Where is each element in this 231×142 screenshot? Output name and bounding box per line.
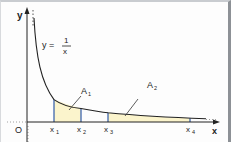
area-a2-label: A bbox=[147, 80, 153, 90]
tick-x2-label: x bbox=[77, 125, 81, 134]
function-lhs: y = bbox=[42, 40, 54, 50]
function-numerator: 1 bbox=[64, 36, 69, 45]
area-a1-label: A bbox=[81, 86, 87, 96]
tick-x3-label: x bbox=[104, 125, 108, 134]
tick-x4-sub: 4 bbox=[192, 129, 195, 135]
area-a2-sub: 2 bbox=[154, 85, 157, 91]
tick-x1-label: x bbox=[50, 125, 54, 134]
origin-label: O bbox=[15, 125, 22, 135]
x-axis-label: x bbox=[212, 126, 217, 136]
tick-x3-sub: 3 bbox=[110, 129, 113, 135]
tick-x4-label: x bbox=[186, 125, 190, 134]
hyperbola-curve bbox=[34, 18, 206, 119]
area-a1-sub: 1 bbox=[88, 91, 91, 97]
diagram-frame: y y = 1 x A 1 A 2 O x 1 x 2 x 3 x 4 x bbox=[0, 0, 231, 142]
tick-x2-sub: 2 bbox=[83, 129, 86, 135]
hyperbola-diagram: y y = 1 x A 1 A 2 O x 1 x 2 x 3 x 4 x bbox=[1, 2, 231, 142]
x-axis-arrow-icon bbox=[213, 120, 220, 125]
function-denominator: x bbox=[63, 47, 67, 56]
y-axis-label: y bbox=[17, 10, 23, 21]
a2-leader-line bbox=[125, 99, 138, 116]
area-a1-shading bbox=[54, 100, 81, 122]
y-axis-arrow-icon bbox=[25, 7, 30, 14]
tick-x1-sub: 1 bbox=[56, 129, 59, 135]
